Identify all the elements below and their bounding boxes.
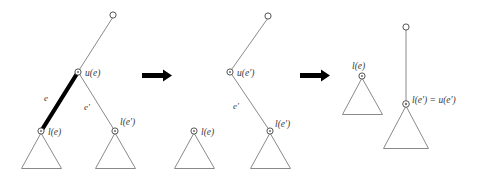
panel2-edge-root-to-u — [231, 18, 269, 71]
diagram-canvas: u(e) e e' l(e) l(e') — [0, 0, 484, 178]
arrow-1-group — [142, 70, 172, 82]
panel3-subtree-merged — [384, 106, 429, 149]
panel2-label-u-e-prime: u(e') — [237, 68, 254, 79]
panel2-label-l-e-prime: l(e') — [275, 119, 290, 130]
panel3-node-root — [403, 24, 409, 30]
panel1-subtree-right — [96, 133, 136, 169]
panel3-label-l-e: l(e) — [352, 61, 365, 72]
panel1-subtree-left — [22, 133, 62, 169]
panel2-node-l-e-prime-center — [269, 130, 271, 132]
panel2-node-root — [265, 13, 271, 19]
panel3-subtree-detached — [343, 78, 383, 115]
panel-3-group: l(e) l(e') = u(e') — [343, 24, 456, 149]
panel2-subtree-right — [251, 133, 291, 169]
panel-1-group: u(e) e e' l(e) l(e') — [22, 12, 136, 169]
panel1-node-u-e-center — [77, 71, 79, 73]
panel2-label-edge-e-prime: e' — [233, 101, 240, 111]
panel3-node-l-e-center — [361, 75, 363, 77]
panel1-label-edge-e: e — [44, 93, 48, 103]
panel1-label-edge-e-prime: e' — [84, 102, 91, 112]
panel1-label-u-e: u(e) — [85, 68, 100, 79]
right-arrow-icon — [300, 70, 330, 82]
panel3-node-merged-center — [405, 103, 407, 105]
right-arrow-icon — [142, 70, 172, 82]
panel1-label-l-e: l(e) — [48, 127, 61, 138]
panel1-label-l-e-prime: l(e') — [120, 117, 135, 128]
panel-2-group: u(e') e' l(e) l(e') — [175, 13, 291, 169]
panel2-node-u-e-prime-center — [229, 71, 231, 73]
panel2-subtree-detached — [175, 133, 215, 169]
panel1-edge-root-to-u — [79, 17, 114, 71]
arrow-2-group — [300, 70, 330, 82]
panel1-node-root — [110, 12, 116, 18]
panel2-label-l-e: l(e) — [201, 127, 214, 138]
panel2-node-l-e-center — [193, 130, 195, 132]
figure-container: u(e) e e' l(e) l(e') — [0, 0, 484, 178]
panel3-label-merged-node: l(e') = u(e') — [412, 95, 456, 106]
panel1-node-l-e-center — [40, 130, 42, 132]
panel1-node-l-e-prime-center — [114, 130, 116, 132]
